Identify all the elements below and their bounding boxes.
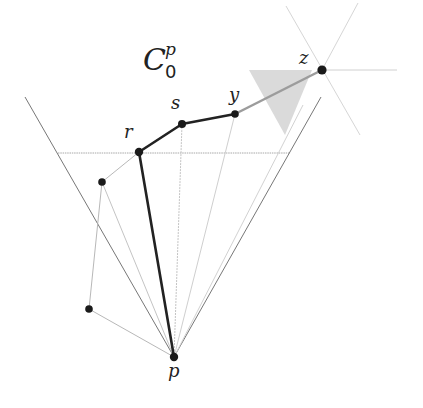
title-base: C xyxy=(143,42,166,77)
label-p: p xyxy=(168,360,180,381)
ray-p-s xyxy=(174,124,182,357)
cone-diagram: p r s y z C p 0 xyxy=(0,0,423,408)
label-z: z xyxy=(298,47,309,68)
point-z xyxy=(317,65,326,74)
edge-b-p xyxy=(89,309,174,357)
title-superscript: p xyxy=(165,39,176,59)
ray-p-y xyxy=(174,114,235,357)
cone-right-inner-line xyxy=(174,105,303,357)
point-s xyxy=(178,120,186,128)
z-diagonal-line-2 xyxy=(322,3,358,70)
cone-right-boundary xyxy=(174,97,321,357)
label-s: s xyxy=(171,92,180,113)
point-y xyxy=(231,110,239,118)
label-y: y xyxy=(228,84,240,105)
ray-p-a xyxy=(102,182,174,357)
point-b xyxy=(85,305,93,313)
edge-a-b xyxy=(89,182,102,309)
edge-r-a xyxy=(102,152,139,182)
title-subscript: 0 xyxy=(165,61,176,82)
point-a xyxy=(98,178,106,186)
label-r: r xyxy=(124,121,134,142)
point-r xyxy=(135,148,143,156)
